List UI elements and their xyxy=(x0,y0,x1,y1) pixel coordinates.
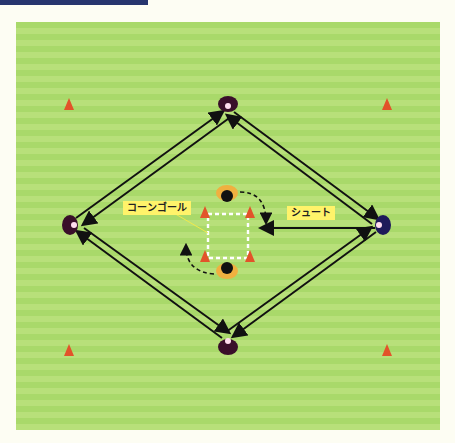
player-left xyxy=(62,215,78,235)
cone-goal-label: コーンゴール xyxy=(123,201,191,215)
players xyxy=(62,96,391,355)
player-right xyxy=(375,215,391,235)
passing-arrows xyxy=(76,112,377,338)
player-bottom xyxy=(218,338,238,355)
shoot-label: シュート xyxy=(287,206,335,220)
drill-diagram xyxy=(0,0,455,443)
player-center-bottom xyxy=(216,262,238,279)
cone-goal-square xyxy=(208,214,248,258)
player-top xyxy=(218,96,238,112)
player-center-top xyxy=(216,185,238,202)
